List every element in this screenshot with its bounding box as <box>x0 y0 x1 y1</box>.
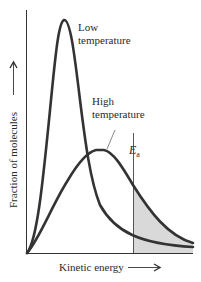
low-temperature-curve <box>27 20 193 253</box>
low-temperature-label-line2: temperature <box>78 34 131 46</box>
activation-energy-label-sub: a <box>136 150 140 159</box>
y-axis-label: Fraction of molecules <box>7 112 19 208</box>
maxwell-boltzmann-chart: Low temperature High temperature Ea Kine… <box>0 0 201 282</box>
high-temperature-label-line2: temperature <box>92 108 145 120</box>
high-temperature-label-line1: High <box>92 95 115 107</box>
x-axis-label: Kinetic energy <box>59 261 124 273</box>
activation-energy-label: Ea <box>128 143 140 159</box>
high-temperature-leader-line <box>107 130 115 149</box>
low-temperature-label-line1: Low <box>78 21 98 33</box>
